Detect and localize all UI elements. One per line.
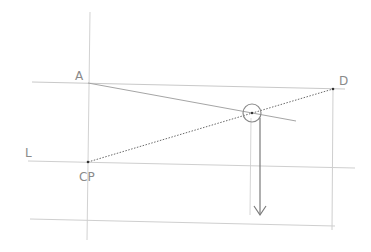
perspective-diagram: A D L CP [0, 0, 371, 252]
label-A: A [75, 69, 84, 83]
right-vertical-guide [332, 89, 333, 230]
label-D: D [339, 74, 348, 88]
label-L: L [25, 146, 32, 160]
bottom-horizontal-line [30, 219, 335, 226]
label-CP: CP [79, 170, 95, 184]
intersection-vertical-guide [250, 118, 251, 215]
left-vertical-guide [87, 12, 90, 240]
point-D [332, 88, 335, 91]
top-horizontal-line [32, 82, 345, 89]
intersection-point [251, 112, 253, 114]
line-L [28, 161, 355, 168]
point-CP [87, 161, 90, 164]
line-from-A [88, 83, 296, 121]
dotted-line-CP-to-D [88, 89, 333, 162]
